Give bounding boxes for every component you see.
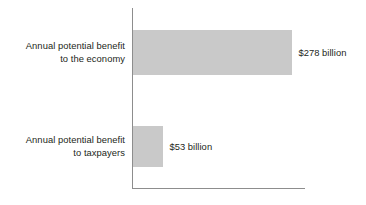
category-label-line1: Annual potential benefit bbox=[26, 40, 125, 51]
bar-category-label-economy: Annual potential benefit to the economy bbox=[3, 39, 125, 66]
bar-value-label-economy: $278 billion bbox=[298, 46, 346, 59]
bar-taxpayers bbox=[133, 126, 163, 167]
plot-area: Annual potential benefit to the economy … bbox=[0, 0, 366, 205]
bar-economy bbox=[133, 30, 292, 75]
category-label-line1: Annual potential benefit bbox=[26, 134, 125, 145]
y-axis-line bbox=[132, 8, 133, 189]
bar-chart-figure: Annual potential benefit to the economy … bbox=[0, 0, 366, 205]
bar-row-taxpayers: Annual potential benefit to taxpayers $5… bbox=[0, 126, 366, 167]
category-label-line2: to the economy bbox=[3, 52, 125, 65]
bar-row-economy: Annual potential benefit to the economy … bbox=[0, 30, 366, 75]
bar-category-label-taxpayers: Annual potential benefit to taxpayers bbox=[3, 133, 125, 160]
bar-value-label-taxpayers: $53 billion bbox=[169, 140, 212, 153]
category-label-line2: to taxpayers bbox=[3, 146, 125, 159]
x-axis-line bbox=[132, 188, 305, 189]
